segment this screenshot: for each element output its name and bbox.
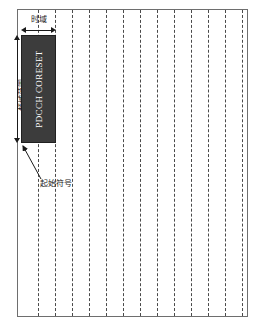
pdcch-coreset-label: PDCCH CORESET [34, 50, 44, 127]
symbol-boundary-line [208, 10, 209, 316]
pdcch-coreset-block: PDCCH CORESET [21, 35, 56, 143]
start-symbol-label: 起始符号 [40, 177, 72, 188]
symbol-boundary-line [225, 10, 226, 316]
symbol-boundary-line [242, 10, 243, 316]
symbol-boundary-line [72, 10, 73, 316]
figure-canvas: 时域 频域范围 PDCCH CORESET 起始符号 [0, 0, 261, 330]
symbol-boundary-line [157, 10, 158, 316]
symbol-boundary-line [123, 10, 124, 316]
symbol-boundary-line [191, 10, 192, 316]
time-arrow-head-left [21, 27, 26, 33]
symbol-boundary-line [89, 10, 90, 316]
time-arrow-shaft [25, 30, 52, 31]
symbol-boundary-line [174, 10, 175, 316]
time-arrow-head-right [51, 27, 56, 33]
time-domain-label: 时域 [21, 13, 56, 24]
time-domain-dimension-arrow [21, 27, 56, 35]
symbol-boundary-line [106, 10, 107, 316]
symbol-boundary-line [140, 10, 141, 316]
frequency-arrow-head-top [14, 35, 20, 40]
